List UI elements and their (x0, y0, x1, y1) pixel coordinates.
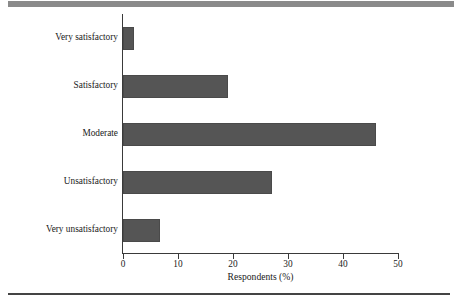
figure-container: Very satisfactorySatisfactoryModerateUns… (0, 0, 460, 305)
x-axis-tick-label: 0 (121, 260, 126, 269)
bar-row (123, 219, 398, 242)
category-label: Unsatisfactory (6, 177, 118, 186)
category-label: Very satisfactory (6, 33, 118, 42)
category-axis-labels: Very satisfactorySatisfactoryModerateUns… (4, 14, 118, 254)
x-axis-title: Respondents (%) (123, 272, 398, 282)
bar-row (123, 171, 398, 194)
x-axis-tick-label: 50 (393, 260, 402, 269)
x-axis-tick-label: 20 (228, 260, 237, 269)
bar (123, 219, 160, 242)
bar-row (123, 75, 398, 98)
bar (123, 27, 134, 50)
plot-area (123, 14, 398, 254)
bar-row (123, 27, 398, 50)
bar (123, 75, 228, 98)
bar (123, 171, 272, 194)
x-axis-tick-label: 30 (283, 260, 292, 269)
category-label: Satisfactory (6, 81, 118, 90)
category-label: Very unsatisfactory (6, 225, 118, 234)
bar-row (123, 123, 398, 146)
bottom-divider-rule (8, 293, 450, 295)
x-axis-tick-label: 40 (338, 260, 347, 269)
x-axis-tick-label: 10 (173, 260, 182, 269)
category-label: Moderate (6, 129, 118, 138)
bar (123, 123, 376, 146)
top-divider-rule (8, 1, 454, 7)
